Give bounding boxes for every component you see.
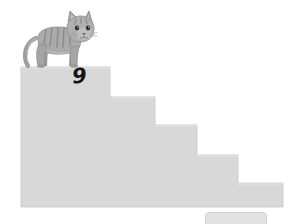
- cat-eye-left-glint: [77, 27, 78, 28]
- staircase-shape: [21, 67, 283, 207]
- tread-highlight-5: [238, 183, 283, 185]
- worksheet-canvas: 9: [0, 0, 295, 224]
- tread-highlight-1: [21, 67, 110, 69]
- staircase-illustration: [0, 0, 295, 224]
- tread-highlight-2: [110, 97, 155, 99]
- cat-eye-right: [86, 26, 90, 31]
- cat-eye-left: [75, 26, 79, 31]
- bottom-tab[interactable]: [205, 212, 267, 224]
- staircase-body: [21, 67, 283, 207]
- tread-highlight-4: [197, 155, 238, 157]
- step-number-label: 9: [71, 66, 87, 88]
- cat-eye-right-glint: [88, 27, 89, 28]
- cat-icon: [25, 11, 97, 68]
- cat-front-leg-near: [70, 46, 79, 66]
- tread-highlight-3: [155, 125, 197, 127]
- cat-paw-hind: [37, 64, 45, 68]
